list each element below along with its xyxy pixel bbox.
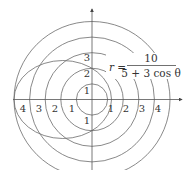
y-label-pos2: 2 (84, 68, 90, 79)
x-label-pos2: 2 (123, 103, 129, 114)
x-label-pos4: 4 (155, 103, 161, 114)
x-label-neg4: 4 (20, 103, 26, 114)
polar-diagram: 4 3 2 1 1 2 3 4 1 2 3 1 r = 10 5 + 3 cos… (0, 0, 189, 170)
equation-denominator: 5 + 3 cos θ (121, 67, 180, 79)
x-label-pos1: 1 (108, 103, 114, 114)
x-label-neg2: 2 (52, 103, 58, 114)
y-label-pos3: 3 (84, 52, 90, 63)
y-axis-labels: 1 2 3 1 (84, 52, 90, 126)
equation-numerator: 10 (144, 52, 157, 64)
x-label-neg3: 3 (36, 103, 42, 114)
x-label-neg1: 1 (69, 103, 75, 114)
y-label-neg1: 1 (84, 115, 90, 126)
x-axis-labels: 4 3 2 1 1 2 3 4 (20, 103, 161, 114)
y-label-pos1: 1 (84, 85, 90, 96)
x-label-pos3: 3 (139, 103, 145, 114)
